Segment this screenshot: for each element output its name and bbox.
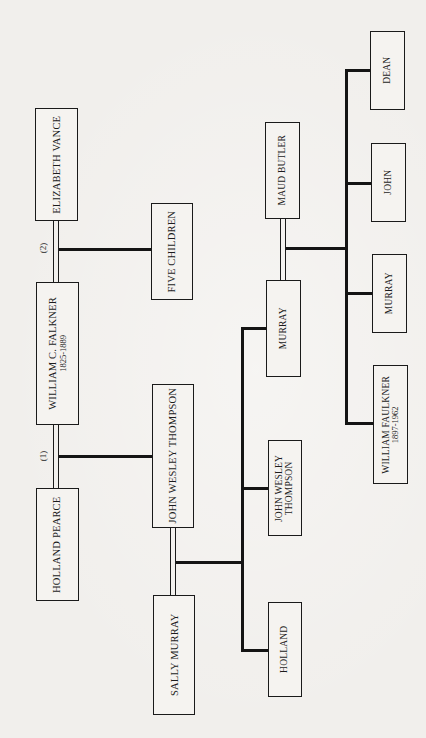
person-box-sally-murray: SALLY MURRAY [153,595,195,715]
person-box-maud-butler: MAUD BUTLER [265,122,300,219]
descent-line-murray-maud-v [345,69,348,425]
person-dates: 1897-1962 [391,406,400,443]
person-box-holland-pearce: HOLLAND PEARCE [36,488,79,601]
person-box-murray: MURRAY [266,280,301,377]
person-box-john-wesley-thompson: JOHN WESLEY THOMPSON [152,384,194,528]
branch-murray [241,327,266,330]
descent-line-jwt [59,455,152,458]
person-name-line1: JOHN WESLEY [275,454,285,521]
person-dates: 1825-1889 [59,335,68,372]
person-box-elizabeth-vance: ELIZABETH VANCE [35,108,78,221]
person-box-five-children: FIVE CHILDREN [151,203,193,300]
person-name: SALLY MURRAY [168,614,180,697]
person-box-john-wesley-thompson-jr: JOHN WESLEY THOMPSON [268,440,302,536]
branch-holland [241,649,268,652]
descent-line-murray-maud-h [286,247,348,250]
marriage-label-2: (2) [38,243,48,254]
person-name: JOHN [383,170,393,195]
branch-william-faulkner [345,422,373,425]
person-name: FIVE CHILDREN [166,211,178,293]
person-name: WILLIAM C. FALKNER [47,297,59,410]
branch-murray-child [345,292,372,295]
person-box-holland: HOLLAND [268,602,302,697]
marriage-label-1: (1) [38,451,48,462]
person-name: DEAN [382,57,392,84]
person-name: MURRAY [278,307,288,349]
person-name: MURRAY [384,272,394,314]
person-name: MAUD BUTLER [277,135,287,206]
person-box-william-faulkner: WILLIAM FAULKNER 1897-1962 [373,365,408,484]
person-box-john: JOHN [371,143,406,222]
descent-line-jwt-sally-h [176,561,244,564]
branch-john [345,182,371,185]
person-box-dean: DEAN [370,31,405,110]
branch-dean [345,69,370,72]
person-box-william-c-falkner: WILLIAM C. FALKNER 1825-1889 [36,282,79,425]
branch-jwt-small [241,487,268,490]
person-name: JOHN WESLEY THOMPSON [167,388,179,524]
person-name-line2: THOMPSON [285,461,295,515]
marriage-line-2 [53,221,59,282]
person-name: ELIZABETH VANCE [51,116,63,214]
person-name: HOLLAND PEARCE [52,496,64,592]
person-box-murray-child: MURRAY [372,254,407,333]
descent-line-five-children [59,248,151,251]
person-name: HOLLAND [280,626,290,673]
page: ELIZABETH VANCE WILLIAM C. FALKNER 1825-… [0,0,426,738]
